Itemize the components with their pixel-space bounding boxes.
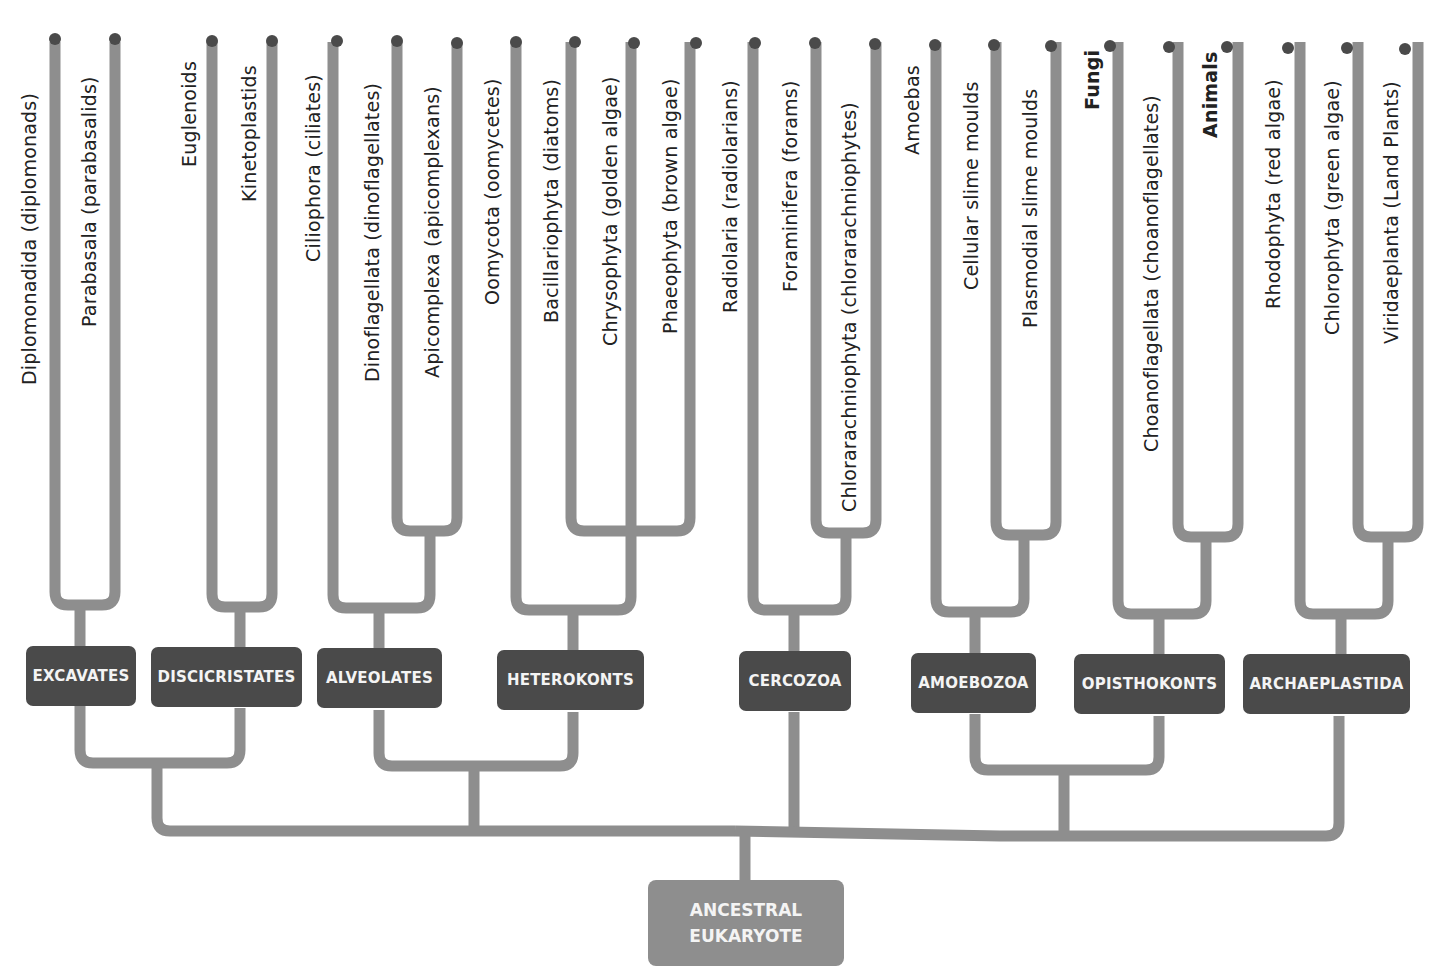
clade-heterokonts: HETEROKONTS	[497, 650, 644, 710]
taxon-bacillariophyta: Bacillariophyta (diatoms)	[540, 79, 562, 323]
taxon-euglenoids: Euglenoids	[178, 61, 200, 167]
branch-main-right	[735, 716, 1339, 836]
taxon-fungi: Fungi	[1081, 50, 1103, 110]
clade-alveolates: ALVEOLATES	[317, 648, 442, 708]
branch-amoebozoa-opisthokonts	[975, 714, 1159, 836]
clade-archaeplastida: ARCHAEPLASTIDA	[1243, 654, 1410, 714]
taxon-choanoflagellata: Choanoflagellata (choanoflagellates)	[1140, 95, 1162, 452]
taxon-foraminifera: Foraminifera (forams)	[779, 80, 801, 292]
taxon-chrysophyta: Chrysophyta (golden algae)	[599, 76, 621, 346]
taxon-rhodophyta: Rhodophyta (red algae)	[1262, 79, 1284, 309]
clade-discicristates: DISCICRISTATES	[151, 647, 302, 707]
taxon-apicomplexa: Apicomplexa (apicomplexans)	[421, 86, 443, 378]
clade-amoebozoa: AMOEBOZOA	[911, 653, 1036, 713]
root-ancestral-eukaryote: ANCESTRAL EUKARYOTE	[648, 880, 844, 966]
taxon-dinoflagellata: Dinoflagellata (dinoflagellates)	[361, 83, 383, 382]
clade-opisthokonts: OPISTHOKONTS	[1074, 654, 1225, 714]
root-label-line1: ANCESTRAL	[690, 897, 802, 923]
branch-alveolates-heterokonts	[379, 710, 573, 831]
taxon-chlorarachniophyta: Chlorarachniophyta (chlorarachniophytes)	[838, 102, 860, 512]
taxon-animals: Animals	[1199, 51, 1221, 138]
root-label-line2: EUKARYOTE	[689, 923, 802, 949]
taxon-plasmodial-slime-moulds: Plasmodial slime moulds	[1019, 89, 1041, 328]
taxon-diplomonadida: Diplomonadida (diplomonads)	[18, 93, 40, 385]
taxon-parabasala: Parabasala (parabasalids)	[78, 76, 100, 327]
taxon-oomycota: Oomycota (oomycetes)	[481, 78, 503, 305]
clade-excavates: EXCAVATES	[26, 646, 136, 706]
taxon-cellular-slime-moulds: Cellular slime moulds	[960, 81, 982, 290]
clade-cercozoa: CERCOZOA	[739, 651, 851, 711]
taxon-radiolaria: Radiolaria (radiolarians)	[719, 80, 741, 313]
taxon-ciliophora: Ciliophora (ciliates)	[302, 74, 324, 262]
taxon-amoebas: Amoebas	[901, 65, 923, 155]
taxon-phaeophyta: Phaeophyta (brown algae)	[659, 78, 681, 334]
taxon-chlorophyta: Chlorophyta (green algae)	[1321, 80, 1343, 335]
taxon-viridaeplanta: Viridaeplanta (Land Plants)	[1380, 81, 1402, 344]
taxon-kinetoplastids: Kinetoplastids	[238, 65, 260, 202]
